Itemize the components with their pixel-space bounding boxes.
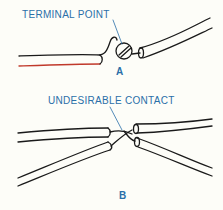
b-wire-ll-bottom — [18, 150, 110, 186]
callout-line-b — [110, 107, 122, 130]
left-wire-bottom — [19, 64, 100, 66]
left-wire-end — [100, 55, 102, 64]
b-wire-ur-bottom — [137, 126, 212, 133]
undesirable-contact-label: UNDESIRABLE CONTACT — [48, 95, 175, 106]
panel-a-label: A — [116, 66, 124, 77]
b-wire-lr-top — [137, 138, 212, 168]
right-wire-top — [140, 18, 210, 48]
right-wire-bottom — [143, 28, 212, 58]
b-wire-ul-bottom — [18, 137, 108, 142]
left-conductor — [100, 37, 117, 55]
b-wire-ul-top — [18, 128, 108, 133]
b-wire-lr-bottom — [138, 147, 212, 176]
panel-b-label: B — [119, 190, 127, 201]
left-wire-top — [19, 55, 100, 56]
terminal-point-label: TERMINAL POINT — [22, 9, 110, 20]
b-wire-ll-top — [18, 142, 108, 178]
b-wire-ur-top — [136, 119, 212, 124]
